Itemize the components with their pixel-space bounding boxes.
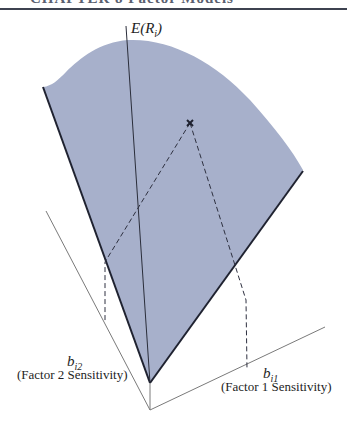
factor1-description-label: (Factor 1 Sensitivity) — [221, 379, 332, 395]
expected-return-axis-label: E(Ri) — [131, 20, 162, 39]
expected-return-surface — [43, 40, 303, 383]
factor2-description-label: (Factor 2 Sensitivity) — [17, 367, 128, 383]
